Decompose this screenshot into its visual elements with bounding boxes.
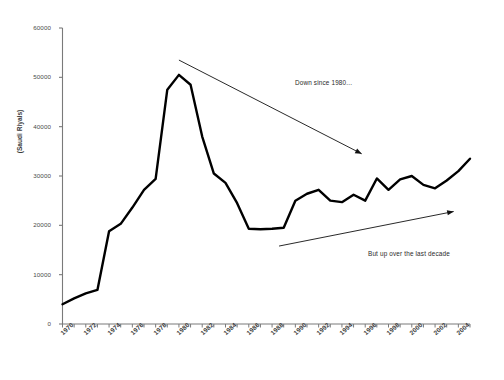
y-axis-tick-label: 0 — [11, 320, 51, 327]
y-axis-tick-label: 60000 — [11, 24, 51, 31]
y-axis-tick-label: 50000 — [11, 73, 51, 80]
chart-data-line — [63, 75, 471, 304]
annotation-label-down-since-1980: Down since 1980... — [295, 79, 352, 86]
y-axis-tick-label: 10000 — [11, 271, 51, 278]
chart-container: (Saudi Riyals) 0100002000030000400005000… — [0, 0, 504, 380]
y-axis-title: (Saudi Riyals) — [16, 97, 23, 167]
annotation-label-but-up-last-decade: But up over the last decade — [368, 250, 450, 257]
y-axis-tick-label: 30000 — [11, 172, 51, 179]
chart-annotation-arrows — [179, 60, 454, 246]
y-axis-tick-label: 20000 — [11, 221, 51, 228]
y-axis-tick-label: 40000 — [11, 123, 51, 130]
